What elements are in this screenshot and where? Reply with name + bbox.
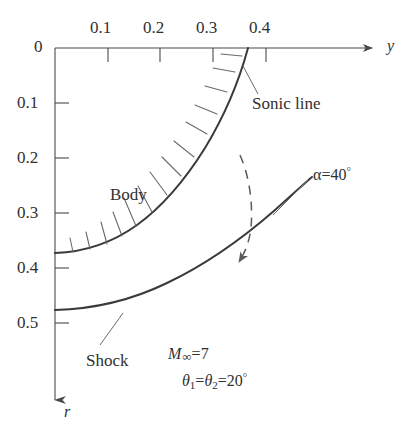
figure-container: 0 0.1 0.2 0.3 0.4 0.1 0.2 0.3 0.4 0.5 y … [0, 0, 415, 437]
mach-symbol: M [168, 345, 181, 362]
r-axis-name: r [64, 404, 70, 420]
xtick-label-0: 0.1 [90, 19, 111, 36]
alpha-annotation: α=40° [313, 166, 351, 183]
sonic-line-leader [243, 66, 258, 94]
shock-leader [100, 313, 123, 345]
horizontal-axis-ticks [108, 48, 266, 62]
shock-label: Shock [86, 352, 129, 369]
xtick-label-2: 0.3 [196, 19, 217, 36]
xtick-label-3: 0.4 [249, 19, 270, 36]
sonic-line-curve [239, 155, 252, 262]
mach-infinity-subscript: ∞ [181, 349, 191, 364]
vertical-axis-ticks [55, 103, 69, 323]
mach-value: 7 [201, 345, 209, 362]
shock-curve [55, 177, 312, 310]
theta1-symbol: θ [182, 372, 190, 389]
horizontal-axis [55, 48, 372, 62]
body-hatching [70, 54, 242, 252]
alpha-degree: ° [346, 165, 350, 177]
mach-annotation: M∞=7 [168, 346, 209, 363]
origin-label: 0 [34, 38, 43, 55]
mach-equals: = [192, 345, 201, 362]
ytick-label-3: 0.4 [17, 259, 38, 276]
alpha-value: 40 [330, 166, 346, 183]
ytick-label-0: 0.1 [17, 94, 38, 111]
ytick-label-2: 0.3 [17, 204, 38, 221]
ytick-label-4: 0.5 [17, 314, 38, 331]
xtick-label-1: 0.2 [143, 19, 164, 36]
alpha-leader [273, 180, 308, 215]
y-axis-name: y [387, 38, 394, 54]
sonic-line-label: Sonic line [252, 95, 320, 112]
vertical-axis [55, 48, 69, 400]
theta-equals-2: = [218, 372, 227, 389]
body-curve [55, 48, 248, 253]
theta-value: 20 [227, 372, 243, 389]
theta-annotation: θ1=θ2=20° [182, 372, 247, 391]
ytick-label-1: 0.2 [17, 149, 38, 166]
body-label: Body [110, 186, 147, 203]
theta-degree: ° [243, 371, 247, 383]
